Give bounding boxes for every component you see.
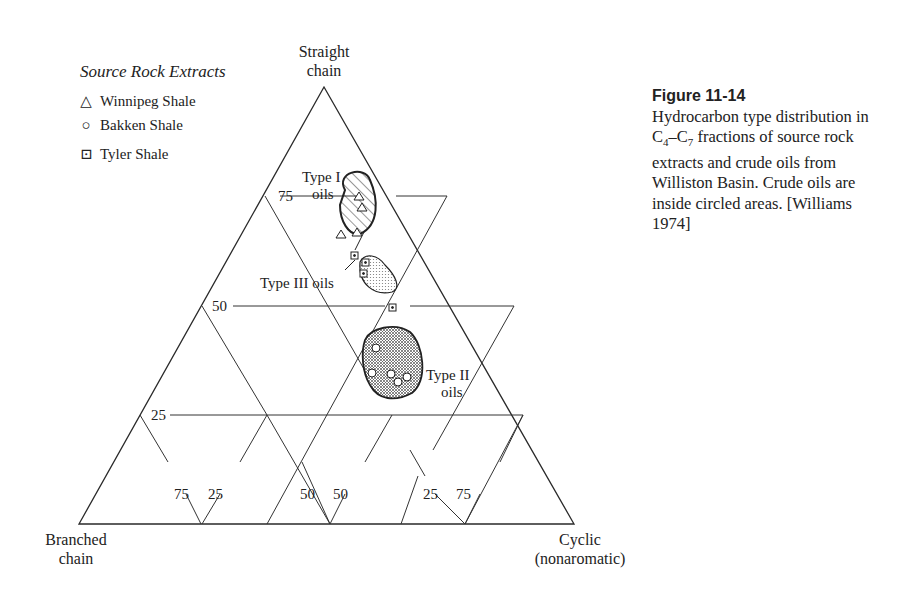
tick-base: 50 (333, 486, 348, 502)
connector-line (345, 260, 355, 270)
label-type2-oils: oils (441, 384, 463, 400)
gridlines-diagonal (140, 196, 523, 524)
label-type3: Type III oils (260, 275, 334, 291)
tick-base: 75 (456, 486, 471, 502)
tick-labels: 75 50 25 75 25 50 50 25 75 (151, 188, 471, 502)
type2-oils-region (363, 327, 423, 398)
tick-base: 25 (423, 486, 438, 502)
label-type2: Type II (426, 367, 470, 383)
tick-50: 50 (212, 298, 227, 314)
tick-25: 25 (151, 407, 166, 423)
label-type1-oils: oils (312, 186, 334, 202)
tick-base: 25 (208, 486, 223, 502)
label-type1: Type I (302, 169, 341, 185)
tick-base: 75 (174, 486, 189, 502)
type1-oils-region (340, 172, 376, 234)
tick-75: 75 (278, 188, 293, 204)
tick-base: 50 (300, 486, 315, 502)
ternary-plot: 75 50 25 75 25 50 50 25 75 Type I oils T… (0, 0, 921, 594)
